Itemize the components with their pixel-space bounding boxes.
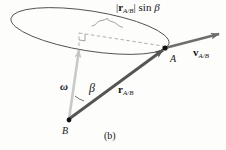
- label-point-a: A: [170, 54, 176, 64]
- point-b-marker: [67, 118, 72, 123]
- velocity-vector-arrow: [165, 34, 219, 48]
- label-point-b: B: [62, 126, 68, 136]
- sin-function-label: sin: [139, 1, 152, 13]
- abs-bar-close: |: [134, 1, 136, 13]
- figure-drawing: [0, 0, 226, 150]
- label-velocity-vector: vA/B: [193, 47, 209, 60]
- right-angle-mark: [79, 34, 85, 41]
- position-vector-label-subscript: A/B: [123, 89, 134, 96]
- position-vector-subscript: A/B: [123, 7, 134, 14]
- figure-container: |rA/B| sin β vA/B rA/B ω β A B (b): [0, 0, 226, 150]
- label-angle-beta: β: [89, 82, 95, 94]
- velocity-vector-subscript: A/B: [199, 52, 210, 59]
- dashed-construction-lines: [79, 33, 163, 46]
- dimension-brace: [92, 18, 123, 27]
- figure-caption: (b): [104, 131, 116, 141]
- position-vector-arrow: [69, 50, 163, 119]
- label-angular-velocity: ω: [60, 81, 68, 92]
- angle-arc-beta: [75, 96, 84, 101]
- point-a-marker: [162, 45, 167, 50]
- label-length-expression: |rA/B| sin β: [116, 2, 160, 15]
- omega-vector-arrow: [69, 50, 79, 119]
- angle-symbol-in-expression: β: [154, 1, 159, 13]
- label-position-vector: rA/B: [118, 84, 133, 97]
